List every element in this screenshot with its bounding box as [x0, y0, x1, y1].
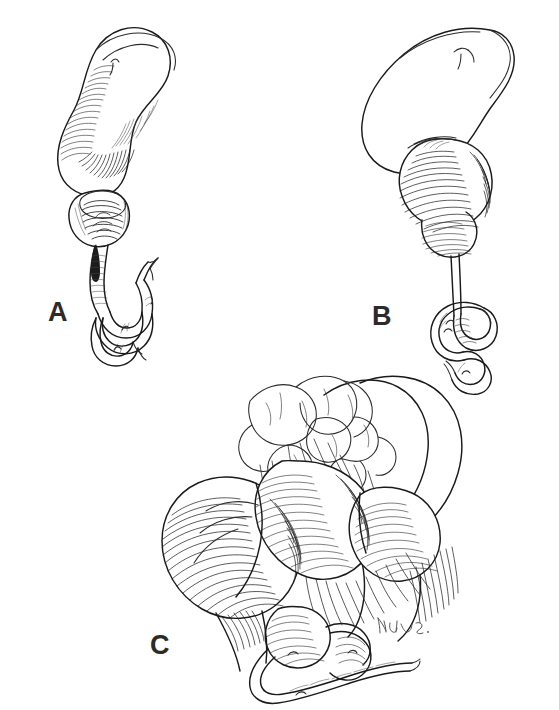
panel-label-b: B	[372, 303, 392, 330]
panel-a-illustration	[0, 0, 250, 390]
panel-c-illustration	[110, 365, 559, 710]
figure-container: A B C	[0, 0, 559, 710]
panel-b-artwork	[340, 0, 559, 400]
panel-a-artwork	[0, 0, 250, 390]
panel-b-illustration	[340, 0, 559, 400]
panel-label-c: C	[150, 632, 170, 659]
panel-c-artwork	[110, 365, 559, 710]
panel-label-a: A	[48, 299, 68, 326]
artist-signature	[378, 618, 429, 634]
